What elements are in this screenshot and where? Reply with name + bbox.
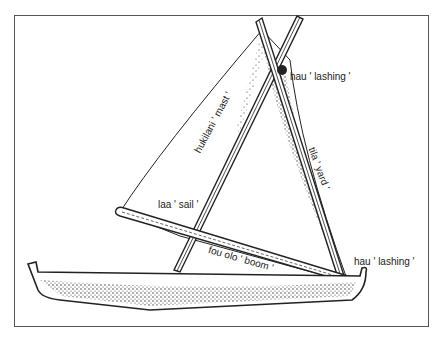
label-hau-lashing-top: hau ' lashing ' [290,72,351,82]
label-sail: laa ' sail ' [158,200,199,210]
top-lashing-knot [277,65,287,75]
label-hau-lashing-bottom: hau ' lashing ' [354,257,415,267]
canoe-illustration [0,0,443,344]
